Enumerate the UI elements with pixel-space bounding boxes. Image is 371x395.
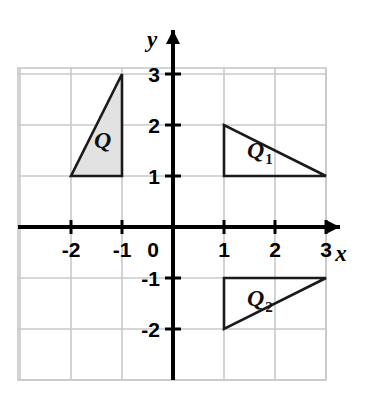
x-tick-label: 1 bbox=[218, 238, 230, 261]
figure-background bbox=[0, 0, 371, 395]
x-tick-label: -2 bbox=[62, 238, 81, 261]
coordinate-figure: QQ1Q2 -2-11230321-1-2 x y bbox=[0, 0, 371, 395]
y-tick-label: 3 bbox=[148, 63, 160, 86]
origin-label: 0 bbox=[147, 238, 159, 261]
y-tick-label: 1 bbox=[148, 165, 160, 188]
y-tick-label: 2 bbox=[148, 114, 160, 137]
x-tick-label: -1 bbox=[113, 238, 132, 261]
x-axis-label: x bbox=[334, 241, 347, 266]
shape-label-Q: Q bbox=[94, 127, 111, 153]
coordinate-plot: QQ1Q2 -2-11230321-1-2 x y bbox=[0, 0, 371, 395]
x-tick-label: 3 bbox=[320, 238, 332, 261]
y-tick-label: -1 bbox=[141, 267, 160, 290]
shape-label-subscript-Q1: 1 bbox=[265, 151, 273, 167]
x-tick-label: 2 bbox=[269, 238, 281, 261]
shape-label-subscript-Q2: 2 bbox=[265, 299, 273, 315]
y-axis-label: y bbox=[144, 27, 158, 52]
y-tick-label: -2 bbox=[141, 318, 160, 341]
